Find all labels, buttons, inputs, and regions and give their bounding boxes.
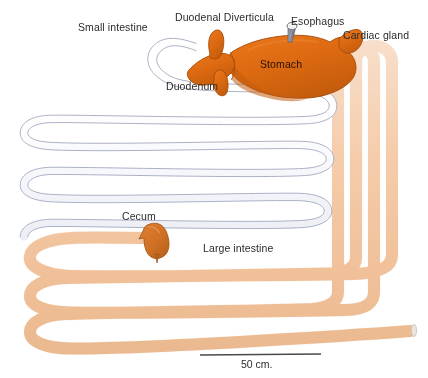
- label-esophagus: Esophagus: [291, 16, 344, 27]
- anatomy-illustration: [0, 0, 428, 378]
- scale-bar-caption: 50 cm.: [241, 358, 273, 370]
- label-stomach: Stomach: [260, 59, 302, 70]
- scale-bar: [200, 354, 321, 355]
- label-cecum: Cecum: [122, 211, 156, 222]
- label-duodenum: Duodenum: [166, 81, 218, 92]
- duodenal-diverticulum-upper: [209, 30, 224, 59]
- label-small-intestine: Small intestine: [78, 22, 148, 33]
- large-intestine-cut-end: [411, 325, 416, 337]
- label-large-intestine: Large intestine: [203, 243, 273, 254]
- digestive-tract-figure: Small intestine Duodenal Diverticula Eso…: [0, 0, 428, 378]
- label-duodenal-diverticula: Duodenal Diverticula: [175, 12, 274, 23]
- label-cardiac-gland: Cardiac gland: [343, 30, 409, 41]
